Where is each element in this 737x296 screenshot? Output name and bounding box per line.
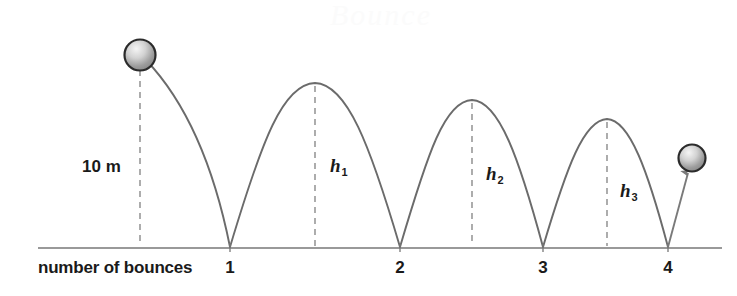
- initial-height-label: 10 m: [82, 157, 121, 177]
- x-axis-tick-label-4: 4: [653, 258, 683, 278]
- diagram-svg: [0, 0, 737, 296]
- height-symbol-h1: h: [330, 155, 341, 176]
- drop-path: [146, 60, 230, 247]
- height-label-h2: h2: [486, 163, 503, 185]
- height-subscript-h2: 2: [498, 174, 504, 186]
- x-axis-tick-label-1: 1: [215, 258, 245, 278]
- x-axis-title: number of bounces: [38, 258, 192, 278]
- height-symbol-h2: h: [486, 163, 497, 184]
- rebound-arrow: [668, 173, 688, 247]
- height-subscript-h1: 1: [342, 166, 348, 178]
- arc-3: [543, 119, 668, 247]
- height-symbol-h3: h: [620, 180, 631, 201]
- ball-initial-icon: [125, 40, 156, 71]
- x-axis-tick-label-2: 2: [385, 258, 415, 278]
- height-label-h1: h1: [330, 155, 347, 177]
- ball-final-icon: [679, 145, 706, 172]
- height-label-h3: h3: [620, 180, 637, 202]
- height-subscript-h3: 3: [632, 191, 638, 203]
- x-axis-tick-label-3: 3: [528, 258, 558, 278]
